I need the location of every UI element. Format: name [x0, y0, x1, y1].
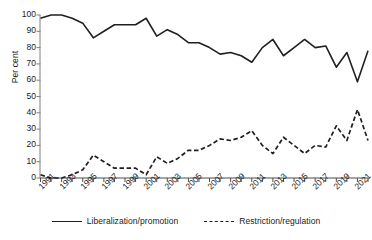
- x-tick-label: 1991: [37, 172, 57, 192]
- x-tick-label: 1997: [100, 172, 120, 192]
- legend-label: Restriction/regulation: [239, 216, 320, 226]
- legend-item[interactable]: Restriction/regulation: [204, 216, 320, 226]
- x-tick-label: 2003: [163, 172, 183, 192]
- dashed-line-icon: [204, 221, 234, 222]
- x-tick-label: 2019: [332, 172, 352, 192]
- x-tick-label: 2009: [227, 172, 247, 192]
- line-chart: Per cent 0102030405060708090100 19911993…: [0, 0, 372, 240]
- legend-label: Liberalization/promotion: [87, 216, 178, 226]
- x-tick-label: 1995: [79, 172, 99, 192]
- x-tick-label: 2007: [206, 172, 226, 192]
- x-tick-label: 2001: [142, 172, 162, 192]
- x-tick-label: 2017: [311, 172, 331, 192]
- x-tick-label: 1999: [121, 172, 141, 192]
- x-tick-label: 2011: [248, 172, 267, 191]
- x-tick-label: 2021: [353, 172, 372, 192]
- x-tick-label: 2013: [269, 172, 289, 192]
- x-tick-label: 2005: [184, 172, 204, 192]
- x-tick-label: 1993: [58, 172, 78, 192]
- legend-item[interactable]: Liberalization/promotion: [52, 216, 178, 226]
- solid-line-icon: [52, 221, 82, 222]
- x-tick-label: 2015: [290, 172, 310, 192]
- x-axis-tick-labels: 1991199319951997199920012003200520072009…: [0, 0, 372, 240]
- chart-legend: Liberalization/promotionRestriction/regu…: [0, 216, 372, 226]
